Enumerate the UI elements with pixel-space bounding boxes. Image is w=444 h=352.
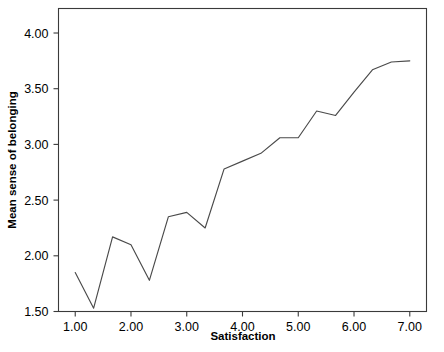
y-tick-label: 3.50 [24,82,48,96]
x-tick-label: 5.00 [286,320,310,334]
chart-canvas: 1.002.003.004.005.006.007.00 1.502.002.5… [0,0,444,352]
x-tick-label: 6.00 [342,320,366,334]
y-axis-tick-labels: 1.502.002.503.003.504.00 [24,27,48,319]
y-axis-title: Mean sense of belonging [6,91,18,228]
data-series-line [75,61,410,308]
y-axis-ticks [54,33,59,311]
y-tick-label: 2.00 [24,249,48,263]
x-tick-label: 3.00 [175,320,199,334]
line-chart: 1.002.003.004.005.006.007.00 1.502.002.5… [0,0,444,352]
x-axis-ticks [75,312,410,317]
y-tick-label: 2.50 [24,194,48,208]
x-tick-label: 7.00 [398,320,422,334]
y-tick-label: 1.50 [24,305,48,319]
y-tick-label: 3.00 [24,138,48,152]
x-tick-label: 1.00 [63,320,87,334]
y-tick-label: 4.00 [24,27,48,41]
x-axis-title: Satisfaction [210,330,275,342]
x-tick-label: 2.00 [119,320,143,334]
plot-frame [59,9,427,312]
